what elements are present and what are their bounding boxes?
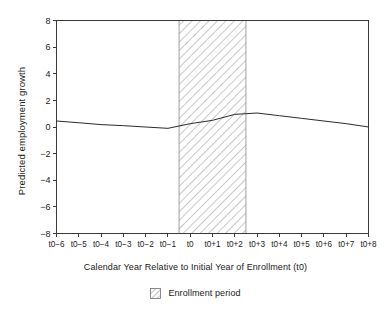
x-tick-label: t0+6: [316, 240, 333, 249]
x-tick-label: t0−4: [93, 240, 110, 249]
x-tick-label: t0+5: [294, 240, 311, 249]
y-tick-label: −2: [40, 149, 50, 159]
y-tick-label: 2: [45, 96, 50, 106]
x-tick-label: t0−6: [48, 240, 65, 249]
x-tick-label: t0−1: [160, 240, 177, 249]
x-tick-label: t0+8: [360, 240, 377, 249]
x-axis-ticks: t0−6t0−5t0−4t0−3t0−2t0−1t0t0+1t0+2t0+3t0…: [48, 234, 377, 250]
x-tick-label: t0: [187, 240, 194, 249]
chart-legend: Enrollment period: [0, 288, 391, 299]
enrollment-period-rect: [179, 21, 246, 234]
x-axis-label: Calendar Year Relative to Initial Year o…: [0, 262, 391, 272]
x-tick-label: t0−2: [138, 240, 155, 249]
chart-figure: Predicted employment growth 86420−2−4−6−…: [0, 0, 391, 310]
y-axis-label: Predicted employment growth: [15, 11, 29, 251]
y-tick-label: 8: [45, 16, 50, 26]
y-tick-label: 4: [45, 69, 50, 79]
x-tick-label: t0−3: [115, 240, 132, 249]
x-tick-label: t0−5: [71, 240, 88, 249]
y-tick-label: −4: [40, 175, 50, 185]
y-axis-ticks: 86420−2−4−6−8: [40, 16, 56, 239]
x-tick-label: t0+7: [338, 240, 355, 249]
x-tick-label: t0+4: [271, 240, 288, 249]
y-tick-label: 6: [45, 42, 50, 52]
x-tick-label: t0+2: [227, 240, 244, 249]
enrollment-period-band: [179, 21, 246, 234]
enrollment-period-swatch-icon: [150, 288, 161, 299]
y-tick-label: 0: [45, 122, 50, 132]
legend-item-label: Enrollment period: [168, 288, 240, 299]
x-tick-label: t0+3: [249, 240, 266, 249]
x-tick-label: t0+1: [204, 240, 221, 249]
y-tick-label: −6: [40, 202, 50, 212]
y-tick-label: −8: [40, 229, 50, 239]
